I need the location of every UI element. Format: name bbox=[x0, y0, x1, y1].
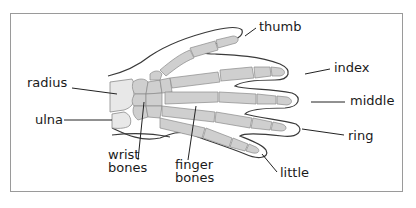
index-finger-bones bbox=[170, 67, 285, 88]
forearm-bones bbox=[110, 79, 134, 128]
ulna-bone bbox=[112, 112, 131, 128]
index-leader bbox=[305, 69, 330, 74]
label-little: little bbox=[280, 166, 309, 180]
ring-leader bbox=[302, 129, 344, 135]
middle-finger-bones bbox=[165, 92, 292, 105]
label-middle: middle bbox=[350, 94, 394, 108]
radius-bone bbox=[110, 79, 134, 112]
label-radius: radius bbox=[27, 76, 67, 90]
label-thumb: thumb bbox=[259, 20, 302, 34]
label-index: index bbox=[334, 61, 370, 75]
label-wrist-bones: wrist bones bbox=[108, 148, 147, 174]
label-finger-bones: finger bones bbox=[175, 158, 214, 184]
label-ulna: ulna bbox=[35, 113, 63, 127]
thumb-leader bbox=[245, 28, 256, 36]
label-ring: ring bbox=[348, 129, 373, 143]
little-leader bbox=[262, 154, 277, 172]
